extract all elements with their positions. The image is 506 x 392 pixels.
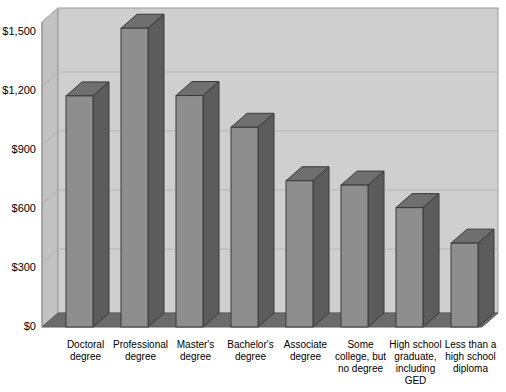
y-tick-300: $300 [12, 261, 36, 273]
bar-side-face [203, 82, 219, 327]
x-axis-label-line: including [396, 363, 435, 374]
x-axis-label-line: degree [125, 351, 157, 362]
y-tick-1200: $1,200 [2, 84, 36, 96]
bar-side-face [93, 82, 109, 327]
x-axis-label: Doctoraldegree [67, 339, 104, 362]
x-axis-label-line: Professional [113, 339, 168, 350]
x-axis-label-line: degree [235, 351, 267, 362]
bar-side-face [478, 229, 494, 327]
chart-title-clipped [0, 0, 506, 1]
x-axis-label-line: Master's [177, 339, 214, 350]
bar-side-face [423, 194, 439, 327]
x-axis-label-line: high school [445, 351, 496, 362]
bar-column [341, 171, 384, 327]
y-tick-600: $600 [12, 202, 36, 214]
chart-canvas: $1,500 $1,200 $900 $600 $300 $0 Doctoral… [0, 0, 506, 392]
x-axis-label-line: degree [290, 351, 322, 362]
y-tick-0: $0 [24, 320, 36, 332]
x-axis-label-line: Some [347, 339, 374, 350]
bar-column [286, 167, 329, 327]
bar-side-face [313, 167, 329, 327]
x-axis-label: Associatedegree [284, 339, 328, 362]
bar-column [396, 194, 439, 327]
x-axis-label-line: Doctoral [67, 339, 104, 350]
bar-side-face [148, 14, 164, 327]
x-axis-label-line: degree [180, 351, 212, 362]
x-axis-label-line: no degree [338, 363, 383, 374]
bar-front-face [451, 243, 478, 327]
bar-front-face [341, 185, 368, 327]
x-axis-label-line: degree [70, 351, 102, 362]
x-axis-label-line: Bachelor's [227, 339, 273, 350]
bar-column [121, 14, 164, 327]
bar-front-face [231, 127, 258, 327]
y-tick-1500: $1,500 [2, 25, 36, 37]
bar-side-face [258, 113, 274, 327]
bar-front-face [121, 28, 148, 327]
bar-column [231, 113, 274, 327]
x-axis-label-line: Less than a [445, 339, 497, 350]
x-axis-label-line: GED [405, 375, 427, 386]
y-tick-900: $900 [12, 143, 36, 155]
x-axis-label: Master'sdegree [177, 339, 214, 362]
x-axis-label-line: graduate, [394, 351, 436, 362]
x-axis-label-line: High school [389, 339, 441, 350]
bar-column [66, 82, 109, 327]
bar-column [451, 229, 494, 327]
bar-front-face [396, 208, 423, 327]
x-axis-label-line: college, but [335, 351, 386, 362]
bar-front-face [286, 181, 313, 327]
x-axis-label-line: diploma [453, 363, 488, 374]
bar-chart: $1,500 $1,200 $900 $600 $300 $0 Doctoral… [0, 0, 506, 392]
bar-column [176, 82, 219, 327]
bar-front-face [176, 96, 203, 327]
plot-left-wall [42, 8, 58, 327]
bar-side-face [368, 171, 384, 327]
x-axis-label-line: Associate [284, 339, 328, 350]
bar-front-face [66, 96, 93, 327]
